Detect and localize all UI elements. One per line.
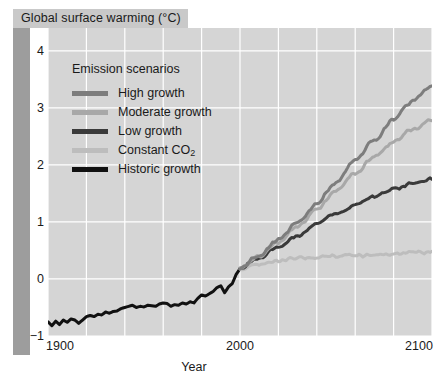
y-axis-tick-label: −1: [4, 330, 44, 343]
y-axis-tick-label: 1: [4, 216, 44, 229]
x-axis-tick-label: 1900: [46, 340, 74, 353]
legend-item[interactable]: Low growth: [72, 123, 212, 140]
page-title: Global surface warming (°C): [21, 12, 181, 25]
legend-item[interactable]: Moderate growth: [72, 104, 212, 121]
legend-swatch: [72, 129, 108, 134]
legend-item[interactable]: Historic growth: [72, 161, 212, 178]
x-axis-tick-label: 2100: [405, 340, 433, 353]
chart-title-box: Global surface warming (°C): [13, 9, 188, 28]
x-axis-label: Year: [181, 360, 206, 374]
y-axis-tick-label: 0: [4, 273, 44, 286]
legend-item-label: Constant CO2: [118, 144, 195, 157]
series-line: [48, 269, 240, 326]
series-line: [240, 251, 432, 270]
legend-item-label: Moderate growth: [118, 106, 212, 119]
chart-figure: Global surface warming (°C) 43210−1 1900…: [0, 0, 443, 391]
y-axis: 43210−1: [0, 28, 44, 336]
legend-item[interactable]: Constant CO2: [72, 142, 212, 159]
x-axis: 190020002100: [48, 340, 432, 358]
chart-legend: Emission scenarios High growthModerate g…: [72, 62, 212, 180]
legend-label-subscript: 2: [190, 148, 195, 158]
x-axis-tick-label: 2000: [226, 340, 254, 353]
legend-item[interactable]: High growth: [72, 85, 212, 102]
legend-swatch: [72, 167, 108, 172]
legend-item-label: High growth: [118, 87, 185, 100]
x-axis-label-wrap: Year: [48, 360, 432, 374]
legend-title: Emission scenarios: [72, 62, 212, 76]
y-axis-tick-label: 2: [4, 159, 44, 172]
legend-item-label: Historic growth: [118, 163, 201, 176]
legend-items: High growthModerate growthLow growthCons…: [72, 85, 212, 178]
y-axis-tick-label: 4: [4, 45, 44, 58]
series-line: [240, 86, 432, 269]
legend-swatch: [72, 110, 108, 115]
y-axis-tick-label: 3: [4, 102, 44, 115]
legend-swatch: [72, 91, 108, 96]
legend-swatch: [72, 148, 108, 153]
legend-item-label: Low growth: [118, 125, 182, 138]
